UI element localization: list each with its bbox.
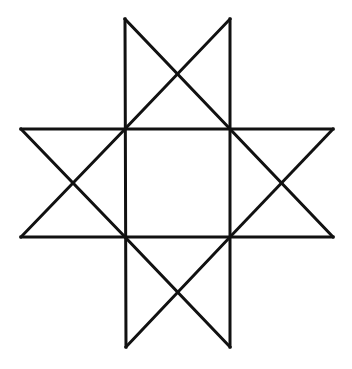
star-figure-canvas — [0, 0, 352, 369]
eight-pointed-star-diagram — [0, 0, 352, 369]
vertical-left-line — [125, 19, 126, 347]
